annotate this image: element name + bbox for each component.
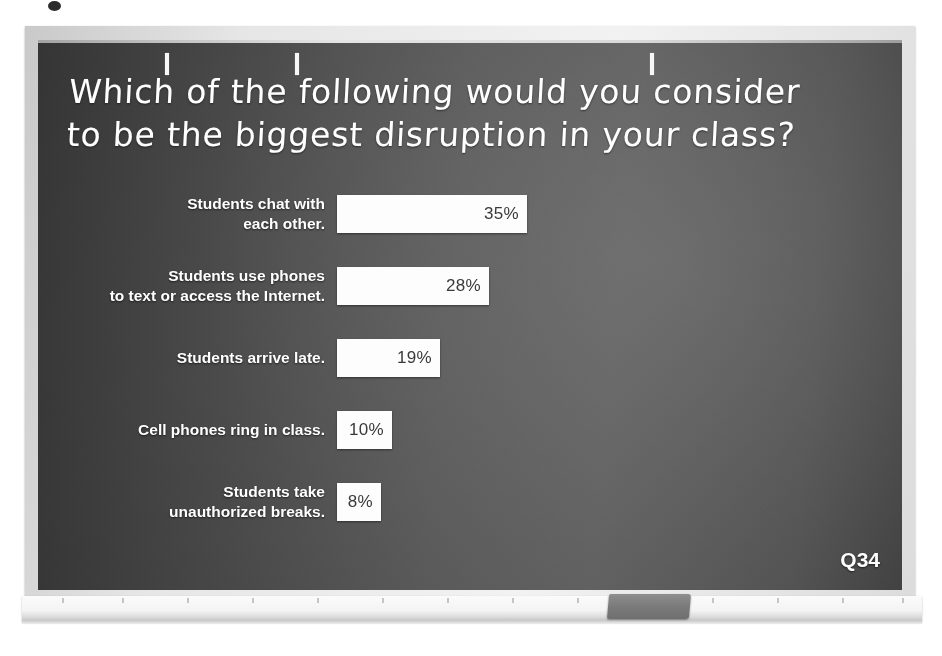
tray-tick	[382, 598, 384, 603]
tray-tick	[187, 598, 189, 603]
tray-tick	[447, 598, 449, 603]
slide-title: Which of the following would you conside…	[66, 71, 900, 157]
bar-category-label: Cell phones ring in class.	[38, 420, 337, 440]
bar-0: 35%	[337, 195, 527, 233]
question-code-badge: Q34	[840, 548, 880, 572]
tray-tick	[842, 598, 844, 603]
tray-tick	[252, 598, 254, 603]
photo-canvas: Which of the following would you conside…	[0, 0, 942, 656]
tray-tick	[712, 598, 714, 603]
bar-2: 19%	[337, 339, 440, 377]
table-row: Students chat with each other. 35%	[38, 190, 902, 238]
bar-category-label: Students arrive late.	[38, 348, 337, 368]
bar-value-label: 19%	[397, 348, 432, 368]
tray-tick	[577, 598, 579, 603]
bar-chart: Students chat with each other. 35% Stude…	[38, 190, 902, 550]
projection-screen: Which of the following would you conside…	[38, 40, 902, 590]
tray-tick	[512, 598, 514, 603]
bar-4: 8%	[337, 483, 381, 521]
bar-1: 28%	[337, 267, 489, 305]
bar-value-label: 28%	[446, 276, 481, 296]
frame-mount-tick	[295, 53, 299, 75]
bar-value-label: 10%	[349, 420, 384, 440]
bar-track: 19%	[337, 334, 902, 382]
image-speck-artifact	[48, 1, 61, 11]
tray-tick	[122, 598, 124, 603]
tray-tick	[62, 598, 64, 603]
whiteboard-eraser	[607, 594, 691, 619]
frame-mount-tick	[650, 53, 654, 75]
bar-category-label: Students chat with each other.	[38, 194, 337, 234]
bar-value-label: 35%	[484, 204, 519, 224]
bar-category-label: Students use phones to text or access th…	[38, 266, 337, 306]
whiteboard-frame: Which of the following would you conside…	[25, 26, 915, 599]
table-row: Students use phones to text or access th…	[38, 262, 902, 310]
tray-tick	[777, 598, 779, 603]
bar-track: 8%	[337, 478, 902, 526]
bar-category-label: Students take unauthorized breaks.	[38, 482, 337, 522]
table-row: Students take unauthorized breaks. 8%	[38, 478, 902, 526]
tray-tick	[902, 598, 904, 603]
tray-shadow-line	[22, 620, 922, 624]
bar-track: 10%	[337, 406, 902, 454]
table-row: Students arrive late. 19%	[38, 334, 902, 382]
tray-tick	[317, 598, 319, 603]
bar-track: 35%	[337, 190, 902, 238]
bar-3: 10%	[337, 411, 392, 449]
bar-track: 28%	[337, 262, 902, 310]
table-row: Cell phones ring in class. 10%	[38, 406, 902, 454]
bar-value-label: 8%	[348, 492, 373, 512]
screen-top-sheen	[38, 40, 902, 43]
whiteboard-tray	[22, 596, 922, 622]
frame-mount-tick	[165, 53, 169, 75]
